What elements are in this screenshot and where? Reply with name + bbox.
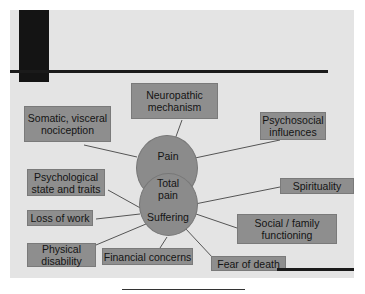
factor-psychosocial-influences: Psychosocial influences xyxy=(260,112,326,140)
suffering-label: Suffering xyxy=(140,211,196,223)
factor-neuropathic-mechanism: Neuropathic mechanism xyxy=(131,83,218,119)
factor-fear-of-death: Fear of death xyxy=(211,256,286,271)
connector-somatic xyxy=(84,145,137,157)
pain-label: Pain xyxy=(148,150,188,162)
bottom-right-rule xyxy=(277,268,354,271)
connector-spirituality xyxy=(195,187,280,204)
connector-financial xyxy=(160,237,167,248)
connector-physical-disability xyxy=(96,224,146,245)
factor-physical-disability: Physical disability xyxy=(27,243,96,267)
connector-psychosocial xyxy=(195,140,280,158)
factor-psychological-state: Psychological state and traits xyxy=(27,169,105,196)
connector-social-family xyxy=(196,214,237,228)
factor-social-family-functioning: Social / family functioning xyxy=(237,214,337,244)
connector-loss-of-work xyxy=(96,214,140,219)
factor-spirituality: Spirituality xyxy=(280,178,354,194)
footer-rule xyxy=(122,289,245,290)
factor-somatic-visceral-nociception: Somatic, visceral nociception xyxy=(24,106,111,142)
total-pain-label: Total pain xyxy=(148,177,188,201)
factor-loss-of-work: Loss of work xyxy=(27,210,93,226)
factor-financial-concerns: Financial concerns xyxy=(102,248,193,265)
